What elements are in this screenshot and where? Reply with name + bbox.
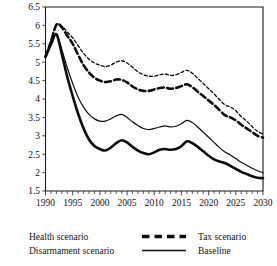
y-tick-label: 3.5 [28, 113, 40, 123]
legend-label: Health scenario [29, 232, 89, 242]
chart-container: 6.565.554.543.532.521.5 1990199520002005… [0, 0, 277, 266]
y-tick-label: 2.5 [28, 150, 40, 160]
y-tick-label: 5.5 [28, 39, 40, 49]
line-chart: 6.565.554.543.532.521.5 1990199520002005… [0, 0, 277, 266]
y-tick-label: 6.5 [28, 2, 40, 12]
x-tick-label: 2010 [145, 198, 164, 208]
legend-item-disarmament-scenario: Disarmament scenario [29, 246, 114, 256]
x-tick-label: 2020 [199, 198, 218, 208]
x-tick-label: 2015 [172, 198, 191, 208]
y-tick-label: 3 [35, 131, 40, 141]
legend-item-health-scenario: Health scenario [29, 232, 89, 242]
y-tick-label: 6 [35, 21, 40, 31]
x-tick-label: 2025 [226, 198, 245, 208]
y-tick-label: 5 [35, 58, 40, 68]
legend-label: Baseline [198, 246, 231, 256]
x-tick-label: 2030 [254, 198, 273, 208]
x-tick-label: 1990 [36, 198, 55, 208]
x-tick-label: 2000 [90, 198, 109, 208]
x-axis-tick-labels: 199019952000200520102015202020252030 [36, 198, 273, 208]
y-tick-label: 4.5 [28, 76, 40, 86]
legend-label: Disarmament scenario [29, 246, 114, 256]
legend-label: Tax scenario [198, 232, 246, 242]
x-tick-label: 1995 [63, 198, 82, 208]
y-tick-label: 4 [35, 94, 40, 104]
y-tick-label: 2 [35, 168, 40, 178]
chart-background [0, 0, 277, 266]
x-tick-label: 2005 [118, 198, 137, 208]
y-tick-label: 1.5 [28, 186, 40, 196]
